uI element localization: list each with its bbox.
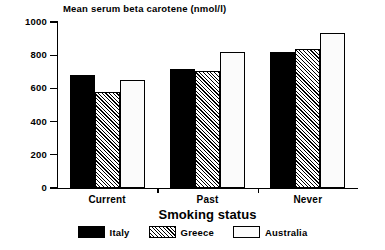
bar-greece-never [295, 49, 320, 188]
y-tick-mark [50, 187, 57, 188]
legend-label-greece: Greece [181, 227, 214, 238]
legend-label-italy: Italy [110, 227, 130, 238]
bar-italy-never [270, 52, 295, 188]
x-tick-label-past: Past [163, 194, 253, 205]
y-tick-mark [50, 121, 57, 122]
legend-swatch-greece [149, 226, 176, 238]
bar-greece-current [95, 92, 120, 188]
x-axis-line [57, 188, 358, 189]
legend-swatch-italy [78, 226, 105, 238]
y-tick-label: 600 [3, 82, 47, 93]
x-tick-mark [258, 188, 259, 193]
x-tick-mark [157, 188, 158, 193]
bar-chart-figure: Mean serum beta carotene (nmol/l) 020040… [0, 0, 385, 250]
bar-australia-past [220, 52, 245, 188]
legend-label-australia: Australia [265, 227, 307, 238]
bar-greece-past [195, 71, 220, 188]
bar-italy-current [70, 75, 95, 188]
legend-swatch-australia [233, 226, 260, 238]
x-tick-label-current: Current [62, 194, 152, 205]
x-axis-title: Smoking status [57, 207, 358, 222]
chart-title: Mean serum beta carotene (nmol/l) [63, 3, 226, 14]
bar-italy-past [170, 69, 195, 188]
y-tick-label: 0 [3, 182, 47, 193]
legend-item-australia: Australia [233, 226, 307, 238]
bar-australia-never [320, 33, 345, 188]
y-tick-label: 400 [3, 116, 47, 127]
y-tick-label: 200 [3, 149, 47, 160]
y-tick-mark [50, 154, 57, 155]
y-tick-mark [50, 55, 57, 56]
y-tick-mark [50, 21, 57, 22]
y-tick-mark [50, 88, 57, 89]
legend-item-italy: Italy [78, 226, 130, 238]
y-tick-label: 1000 [3, 16, 47, 27]
bar-australia-current [120, 80, 145, 188]
x-tick-label-never: Never [263, 194, 353, 205]
bar-series-container [57, 22, 358, 188]
y-tick-label: 800 [3, 49, 47, 60]
chart-legend: ItalyGreeceAustralia [0, 226, 385, 238]
legend-item-greece: Greece [149, 226, 214, 238]
